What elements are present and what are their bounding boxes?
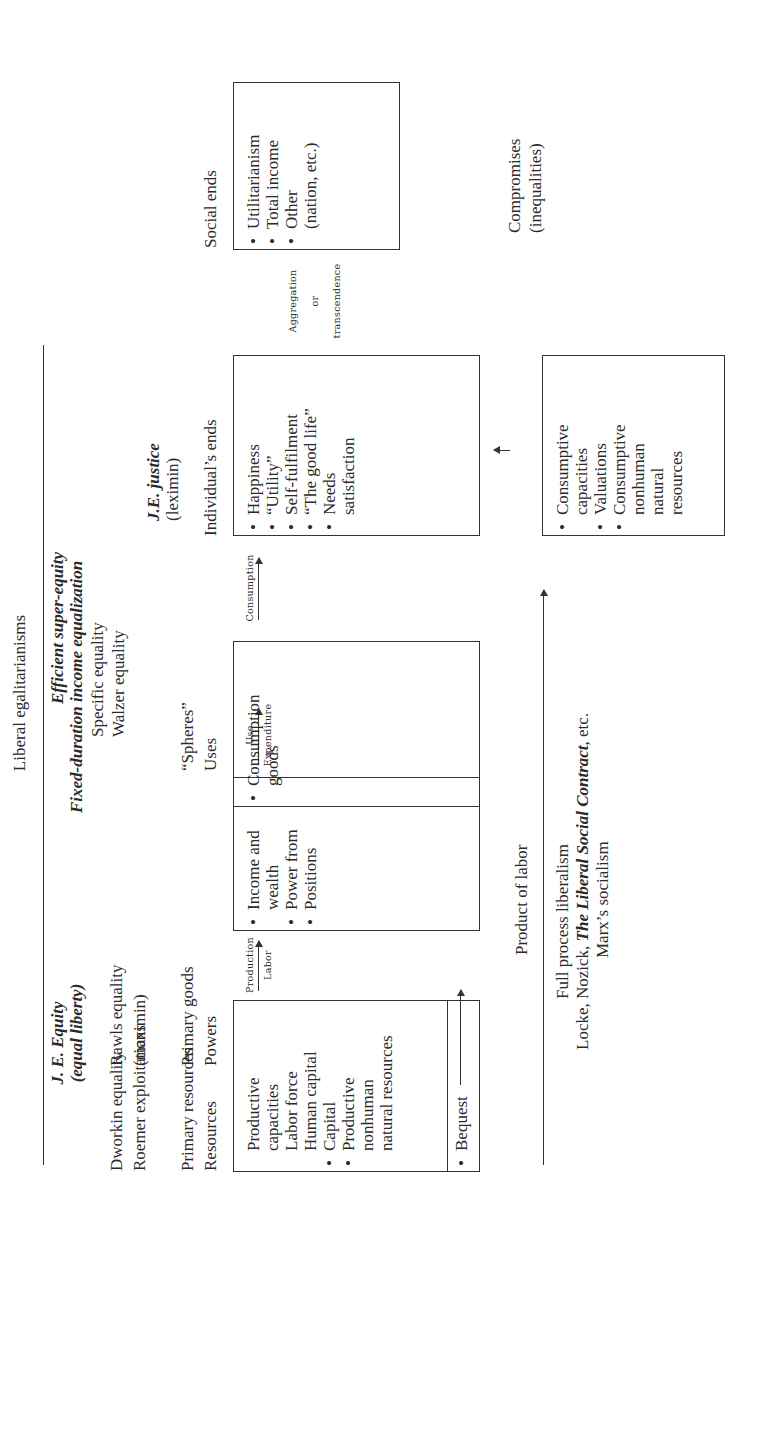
efficient-super-equity-heading: Efficient super-equity [48, 513, 67, 743]
production-arrow [258, 941, 259, 991]
category-primary-goods: Primary goods [178, 966, 197, 1066]
category-individuals-ends: Individual’s ends [201, 419, 220, 536]
list-item: resources [667, 424, 686, 531]
theory-rawls: Rawls equality [107, 964, 126, 1066]
list-item: Productive [339, 1035, 358, 1167]
list-item: “Utility” [263, 408, 282, 531]
book-title: The Liberal Social Contract [573, 745, 592, 941]
inequalities-label: (inequalities) [526, 143, 545, 233]
or-label: or [309, 251, 320, 351]
list-item: Total income [263, 135, 282, 245]
list-item: Self-fulfilment [282, 408, 301, 531]
list-item: natural [648, 424, 667, 531]
list-item: Other [282, 135, 301, 245]
consumption-arrow [258, 558, 259, 620]
authors-suffix: , etc. [573, 713, 592, 746]
transcendence-label: transcendence [331, 251, 342, 351]
je-equity-subheading: (equal liberty) [67, 923, 86, 1143]
list-item: Needs [320, 408, 339, 531]
list-item: Human capital [301, 1035, 320, 1167]
product-of-labor-label: Product of labor [512, 845, 531, 955]
bequest-divider [447, 1001, 448, 1171]
list-item: “The good life” [301, 408, 320, 531]
category-spheres: “Spheres” [178, 702, 197, 771]
list-item: (nation, etc.) [301, 135, 320, 245]
resources-list: Productive capacities Labor force Human … [244, 1035, 396, 1167]
resources-box: Productive capacities Labor force Human … [233, 1000, 480, 1172]
list-item: Income and [244, 829, 263, 926]
leximin-label: (leximin) [163, 458, 182, 521]
bequest-label: Bequest [452, 1096, 471, 1167]
list-item: capacities [572, 424, 591, 531]
bequest-list: Bequest [452, 1096, 471, 1167]
list-item: nonhuman [358, 1035, 377, 1167]
list-item: Power from [282, 829, 301, 926]
authors-line: Locke, Nozick, The Liberal Social Contra… [573, 713, 592, 1050]
diagram-canvas: Liberal egalitarianisms J. E. Equity (eq… [0, 0, 758, 1443]
list-item: Positions [301, 829, 320, 926]
theory-specific-equality: Specific equality [88, 622, 107, 737]
list-item: natural resources [377, 1035, 396, 1167]
je-equity-heading: J. E. Equity [48, 943, 67, 1143]
list-item: Labor force [282, 1035, 301, 1167]
je-justice-heading: J.E. justice [144, 443, 163, 521]
list-item: Productive [244, 1035, 263, 1167]
theory-dworkin: Dworkin equality [107, 1052, 126, 1171]
aggregation-label: Aggregation [287, 251, 298, 351]
consumption-label: Consumption [244, 548, 255, 628]
social-ends-list: Utilitarianism Total income Other (natio… [244, 135, 320, 245]
list-item: goods [263, 694, 282, 802]
list-item: Valuations [591, 424, 610, 531]
list-item: capacities [263, 1035, 282, 1167]
consumptive-list: Consumptive capacities Valuations Consum… [553, 424, 686, 531]
category-resources: Resources [201, 1101, 220, 1171]
list-item: Utilitarianism [244, 135, 263, 245]
list-item: Consumptive [553, 424, 572, 531]
uses-box: Consumption goods [233, 641, 480, 807]
social-ends-box: Utilitarianism Total income Other (natio… [233, 82, 400, 250]
primary-goods-list: Income and wealth Power from Positions [244, 829, 320, 926]
list-item: Happiness [244, 408, 263, 531]
header-rule [43, 345, 44, 1165]
uses-list: Consumption goods [244, 694, 282, 802]
theory-maximin: (maximin) [130, 994, 149, 1066]
category-social-ends: Social ends [201, 170, 220, 248]
list-item: Capital [320, 1035, 339, 1167]
fixed-duration-heading: Fixed-duration income equalization [67, 561, 86, 813]
list-item: Consumption [244, 694, 263, 802]
category-primary-resources: Primary resources [178, 1048, 197, 1171]
consumptive-box: Consumptive capacities Valuations Consum… [542, 355, 725, 536]
category-powers: Powers [201, 1016, 220, 1066]
marx-socialism-label: Marx’s socialism [593, 841, 612, 958]
list-item: Consumptive [610, 424, 629, 531]
theory-walzer-equality: Walzer equality [109, 630, 128, 737]
bequest-arrow [460, 990, 461, 1085]
product-of-labor-arrow [543, 590, 544, 1165]
production-label: Production [244, 935, 255, 995]
authors-prefix: Locke, Nozick, [573, 941, 592, 1050]
list-item: nonhuman [629, 424, 648, 531]
list-item: satisfaction [339, 408, 358, 531]
header-title: Liberal egalitarianisms [10, 543, 29, 843]
labor-label: Labor [262, 935, 273, 995]
individual-ends-box: Happiness “Utility” Self-fulfilment “The… [233, 355, 480, 536]
compromises-label: Compromises [505, 139, 524, 233]
full-process-label: Full process liberalism [553, 844, 572, 999]
category-uses: Uses [201, 738, 220, 771]
list-item: wealth [263, 829, 282, 926]
individual-ends-list: Happiness “Utility” Self-fulfilment “The… [244, 408, 358, 531]
